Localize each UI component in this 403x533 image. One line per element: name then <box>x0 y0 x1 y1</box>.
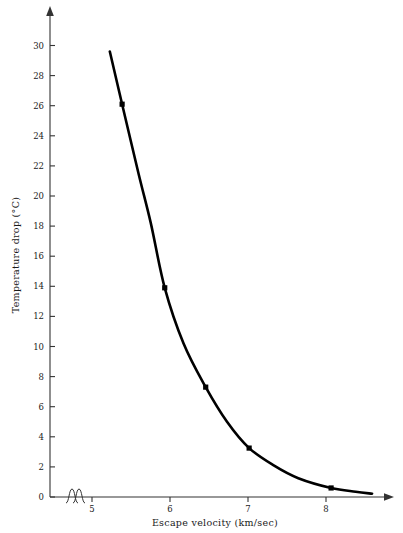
x-tick-label: 7 <box>245 504 250 514</box>
data-curve-main <box>110 52 372 494</box>
y-tick-label: 22 <box>33 161 44 171</box>
data-marker <box>328 485 333 490</box>
y-tick-label: 20 <box>33 191 44 201</box>
y-tick-label: 24 <box>33 131 44 141</box>
y-tick-4: 4 <box>39 432 55 442</box>
y-tick-label: 6 <box>39 402 44 412</box>
x-axis <box>50 493 394 501</box>
y-tick-label: 0 <box>39 492 44 502</box>
y-tick-label: 30 <box>33 41 44 51</box>
x-tick-label: 5 <box>89 504 94 514</box>
y-tick-label: 18 <box>33 221 44 231</box>
y-tick-30: 30 <box>33 41 55 51</box>
x-tick-group: 5 6 7 8 <box>89 497 328 514</box>
y-axis-title: Temperature drop (°C) <box>10 197 21 313</box>
y-tick-label: 2 <box>39 462 44 472</box>
y-tick-label: 26 <box>33 101 44 111</box>
y-axis <box>46 6 54 497</box>
y-tick-14: 14 <box>33 281 55 291</box>
y-tick-6: 6 <box>39 402 55 412</box>
y-tick-24: 24 <box>33 131 55 141</box>
data-marker-group <box>120 102 334 491</box>
y-tick-0: 0 <box>39 492 55 502</box>
y-tick-26: 26 <box>33 101 55 111</box>
x-tick-8: 8 <box>323 497 328 514</box>
y-tick-16: 16 <box>33 251 55 261</box>
y-tick-label: 16 <box>33 251 44 261</box>
y-tick-label: 28 <box>33 71 44 81</box>
y-axis-arrowhead <box>46 6 54 16</box>
y-tick-22: 22 <box>33 161 55 171</box>
x-axis-arrowhead <box>384 493 394 501</box>
y-tick-2: 2 <box>39 462 55 472</box>
data-marker <box>120 102 125 107</box>
y-tick-label: 14 <box>33 281 44 291</box>
x-tick-5: 5 <box>89 497 94 514</box>
y-tick-20: 20 <box>33 191 55 201</box>
y-tick-8: 8 <box>39 372 55 382</box>
y-tick-group: 0 2 4 6 8 10 12 14 16 18 20 22 <box>33 41 55 503</box>
chart-figure: 0 2 4 6 8 10 12 14 16 18 20 22 <box>0 0 403 533</box>
x-tick-label: 8 <box>323 504 328 514</box>
y-tick-label: 10 <box>33 342 44 352</box>
x-axis-title: Escape velocity (km/sec) <box>152 517 278 528</box>
y-tick-12: 12 <box>33 311 55 321</box>
y-tick-28: 28 <box>33 71 55 81</box>
y-tick-label: 8 <box>39 372 44 382</box>
y-tick-10: 10 <box>33 342 55 352</box>
y-tick-18: 18 <box>33 221 55 231</box>
y-tick-label: 12 <box>33 311 44 321</box>
x-tick-label: 6 <box>167 504 172 514</box>
x-tick-7: 7 <box>245 497 250 514</box>
data-marker <box>203 385 208 390</box>
x-tick-6: 6 <box>167 497 172 514</box>
y-tick-label: 4 <box>39 432 44 442</box>
x-axis-break-icon <box>66 489 85 503</box>
data-marker <box>162 285 167 290</box>
data-marker <box>247 445 252 450</box>
chart-canvas: 0 2 4 6 8 10 12 14 16 18 20 22 <box>0 0 403 533</box>
